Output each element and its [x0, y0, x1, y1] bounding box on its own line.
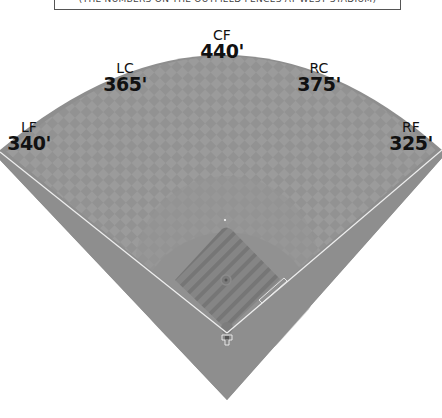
- fence-label-rc: RC 375': [294, 61, 344, 94]
- fence-label-lf: LF 340': [4, 120, 54, 153]
- fence-distance: 340': [4, 134, 54, 153]
- fence-distance: 365': [100, 75, 150, 94]
- second-base: [224, 219, 226, 221]
- fence-label-lc: LC 365': [100, 61, 150, 94]
- fence-distance: 325': [386, 134, 436, 153]
- fence-label-rf: RF 325': [386, 120, 436, 153]
- fence-label-cf: CF 440': [197, 28, 247, 61]
- fence-distance: 375': [294, 75, 344, 94]
- fence-distance: 440': [197, 42, 247, 61]
- baseball-field: [0, 0, 442, 418]
